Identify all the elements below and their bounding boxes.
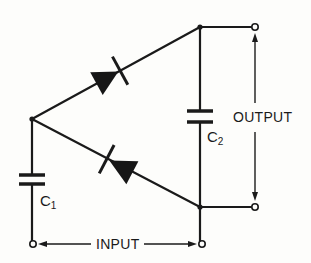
output-terminal-top (252, 24, 258, 30)
junction-bottom-right (197, 204, 202, 209)
junction-left (29, 116, 34, 121)
c1-label: C1 (40, 192, 56, 211)
capacitor-c1 (19, 175, 45, 184)
c2-label: C2 (207, 128, 223, 147)
c2-letter: C (207, 128, 218, 145)
diode-lower (99, 145, 140, 187)
output-terminal-bottom (252, 204, 258, 210)
input-label: INPUT (96, 236, 140, 252)
output-label: OUTPUT (233, 109, 292, 125)
c2-subscript: 2 (218, 136, 224, 147)
input-terminal-left (30, 241, 36, 247)
c1-letter: C (40, 192, 51, 209)
c1-subscript: 1 (51, 200, 57, 211)
circuit-schematic (0, 0, 311, 263)
input-terminal-right (199, 241, 205, 247)
capacitor-c2 (187, 111, 213, 122)
junction-top-right (197, 24, 202, 29)
diode-upper (89, 57, 128, 98)
